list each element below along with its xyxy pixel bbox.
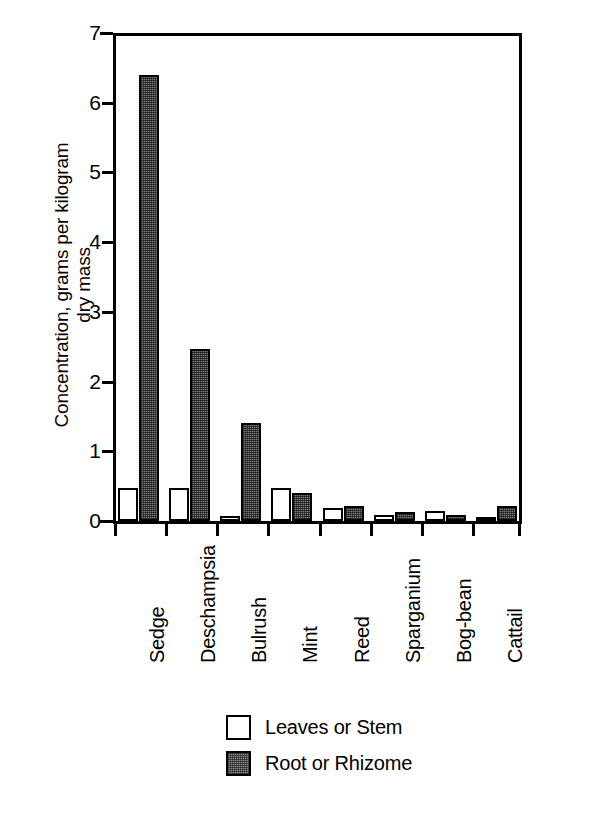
bar-root-mint [292,493,312,521]
x-axis-line [113,521,522,524]
bar-chart-figure: Concentration, grams per kilogram dry ma… [0,0,597,816]
y-tick-5 [102,171,113,174]
y-tick-label-7: 7 [65,22,101,43]
bar-leaves-reed [323,508,343,521]
x-label-bulrush: Bulrush [249,597,269,663]
x-tick-4 [319,524,322,536]
bar-leaves-sedge [118,488,138,521]
y-tick-3 [102,311,113,314]
x-label-reed: Reed [352,616,372,663]
x-tick-end [518,524,521,536]
legend-label: Leaves or Stem [265,717,402,737]
legend-item-leaves: Leaves or Stem [226,712,486,742]
bar-root-sedge [139,75,159,521]
bar-leaves-bulrush [220,516,240,521]
y-tick-label-3: 3 [65,301,101,322]
y-tick-label-6: 6 [65,92,101,113]
x-label-sedge: Sedge [147,607,167,663]
bar-root-cattail [497,506,517,521]
x-label-bog-bean: Bog-bean [454,579,474,663]
x-label-mint: Mint [300,626,320,663]
x-tick-3 [267,524,270,536]
y-tick-7 [100,32,113,35]
plot-area: 01234567 [113,33,522,524]
y-tick-label-1: 1 [65,440,101,461]
y-tick-2 [102,381,113,384]
shaded-square-icon [226,751,251,776]
x-tick-6 [421,524,424,536]
y-tick-6 [102,102,113,105]
plot-right-border [519,33,522,524]
y-tick-label-4: 4 [65,231,101,252]
bar-leaves-cattail [476,517,496,521]
bar-leaves-mint [271,488,291,521]
bar-root-reed [344,506,364,521]
bar-root-bulrush [241,423,261,521]
legend-label: Root or Rhizome [265,753,412,773]
x-label-sparganium: Sparganium [403,558,423,663]
y-tick-0 [100,520,113,523]
y-tick-label-2: 2 [65,371,101,392]
bar-root-sparganium [395,512,415,521]
x-tick-7 [472,524,475,536]
bar-leaves-bog-bean [425,511,445,521]
y-tick-label-0: 0 [65,510,101,531]
open-square-icon [226,715,251,740]
x-tick-1 [165,524,168,536]
x-label-cattail: Cattail [505,608,525,663]
legend-item-root: Root or Rhizome [226,748,486,778]
x-tick-5 [370,524,373,536]
x-tick-2 [216,524,219,536]
y-tick-4 [102,241,113,244]
bar-leaves-deschampsia [169,488,189,521]
bar-root-deschampsia [190,349,210,521]
bar-root-bog-bean [446,515,466,521]
x-label-deschampsia: Deschampsia [198,545,218,663]
chart-legend: Leaves or StemRoot or Rhizome [226,712,486,784]
y-axis-line [113,33,116,524]
bar-leaves-sparganium [374,515,394,521]
plot-top-border [113,33,522,36]
y-tick-label-5: 5 [65,161,101,182]
y-tick-1 [102,450,113,453]
x-tick-0 [114,524,117,536]
